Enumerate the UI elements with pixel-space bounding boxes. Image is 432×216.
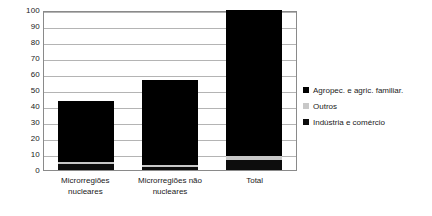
x-label-line: Microrregiões não — [138, 176, 202, 185]
stacked-bar[interactable] — [226, 10, 282, 170]
x-axis: Microrregiões nucleares Microrregiões nã… — [43, 176, 297, 197]
y-tick-label: 80 — [0, 39, 40, 47]
bar-slot — [128, 12, 211, 170]
x-axis-label-microrregioes-nucleares: Microrregiões nucleares — [43, 176, 127, 197]
bar-slot — [212, 12, 295, 170]
bar-segment-agropecuaria — [58, 101, 114, 162]
legend: Agropec. e agric. familiar. Outros Indús… — [303, 82, 431, 130]
y-tick-label: 20 — [0, 135, 40, 143]
y-axis: 100 90 80 70 60 50 40 30 20 10 0 — [0, 11, 40, 171]
bar-segment-agropecuaria — [142, 80, 198, 165]
x-label-line: Microrregiões — [61, 176, 109, 185]
bar-segment-industria — [58, 164, 114, 170]
legend-item-outros[interactable]: Outros — [303, 98, 431, 114]
x-label-line: nucleares — [68, 187, 103, 196]
bar-segment-industria — [226, 160, 282, 170]
stacked-bar-chart: 100 90 80 70 60 50 40 30 20 10 0 — [0, 0, 432, 216]
stacked-bar[interactable] — [58, 101, 114, 170]
legend-label: Agropec. e agric. familiar. — [313, 86, 403, 95]
plot-area — [43, 11, 297, 171]
y-tick-label: 0 — [0, 167, 40, 175]
bar-segment-agropecuaria — [226, 10, 282, 156]
bar-slot — [44, 12, 127, 170]
y-tick-label: 10 — [0, 151, 40, 159]
square-swatch-icon — [303, 87, 309, 93]
y-tick-label: 40 — [0, 103, 40, 111]
legend-item-agropecuaria[interactable]: Agropec. e agric. familiar. — [303, 82, 431, 98]
y-tick-label: 50 — [0, 87, 40, 95]
square-swatch-icon — [303, 119, 309, 125]
y-tick-label: 100 — [0, 7, 40, 15]
y-tick-label: 30 — [0, 119, 40, 127]
y-tick-label: 60 — [0, 71, 40, 79]
x-axis-label-microrregioes-nao-nucleares: Microrregiões não nucleares — [128, 176, 212, 197]
legend-label: Outros — [313, 102, 337, 111]
bar-segment-industria — [142, 167, 198, 170]
legend-label: Indústria e comércio — [313, 118, 385, 127]
x-label-line: nucleares — [153, 187, 188, 196]
y-tick-label: 90 — [0, 23, 40, 31]
x-label-line: Total — [246, 176, 263, 185]
x-axis-label-total: Total — [213, 176, 297, 197]
bar-group — [44, 12, 296, 170]
square-swatch-icon — [303, 103, 309, 109]
y-tick-label: 70 — [0, 55, 40, 63]
stacked-bar[interactable] — [142, 80, 198, 170]
legend-item-industria[interactable]: Indústria e comércio — [303, 114, 431, 130]
